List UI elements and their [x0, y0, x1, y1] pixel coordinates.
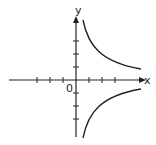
lower-branch-curve: [83, 89, 141, 138]
y-axis-arrow-icon: [73, 16, 79, 23]
y-axis-label: y: [75, 4, 82, 17]
x-axis-label: x: [144, 74, 151, 87]
upper-branch-curve: [83, 20, 141, 69]
hyperbola-chart: y x 0: [0, 0, 156, 145]
origin-label: 0: [66, 82, 73, 95]
